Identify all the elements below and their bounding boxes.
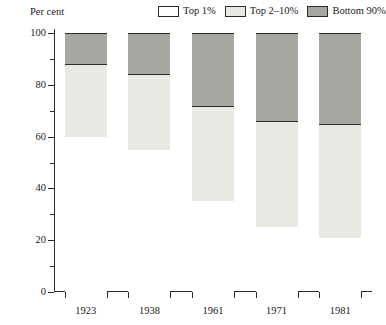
y-tick-label: 80 [36, 80, 47, 91]
legend-swatch-top-1 [158, 6, 179, 17]
bar-1923[interactable] [65, 33, 107, 292]
x-tick-label-1923: 1923 [75, 306, 96, 317]
segment-top-1-1923 [65, 137, 107, 292]
y-tick-mark [48, 240, 54, 241]
x-tick-mark [256, 292, 257, 298]
y-tick-mark [50, 266, 54, 267]
y-tick-label: 20 [36, 235, 47, 246]
y-tick-label: 100 [30, 28, 46, 39]
x-tick-mark [361, 292, 362, 298]
segment-bottom-90-1938 [128, 33, 170, 74]
x-tick-mark [192, 292, 193, 298]
segment-top-2-10-1923 [65, 64, 107, 137]
y-tick-mark [48, 33, 54, 34]
bar-1971[interactable] [256, 33, 298, 292]
x-tick-mark [128, 292, 129, 298]
x-tick-label-1971: 1971 [266, 306, 287, 317]
y-tick-mark [48, 85, 54, 86]
x-tick-mark [234, 292, 235, 298]
segment-bottom-90-1923 [65, 33, 107, 64]
legend-swatch-top-2-10 [225, 6, 246, 17]
y-axis-line [54, 29, 55, 292]
segment-top-2-10-1961 [192, 106, 234, 202]
y-tick-label: 40 [36, 183, 47, 194]
y-tick-mark [50, 163, 54, 164]
segment-top-1-1981 [319, 238, 361, 292]
bar-1981[interactable] [319, 33, 361, 292]
x-tick-mark [319, 292, 320, 298]
legend-label-bottom-90: Bottom 90% [332, 6, 385, 17]
legend-item-top-2-10: Top 2–10% [225, 6, 299, 17]
bar-1961[interactable] [192, 33, 234, 292]
y-tick-mark [48, 188, 54, 189]
segment-top-1-1938 [128, 150, 170, 292]
y-tick-mark [48, 292, 54, 293]
x-tick-mark [170, 292, 171, 298]
segment-top-1-1961 [192, 201, 234, 292]
y-tick-mark [50, 59, 54, 60]
x-tick-mark [107, 292, 108, 298]
segment-top-2-10-1971 [256, 121, 298, 227]
y-tick-label: 0 [41, 287, 46, 298]
y-tick-label: 60 [36, 131, 47, 142]
legend-item-bottom-90: Bottom 90% [307, 6, 385, 17]
plot-area: 020406080100 19231938196119711981 [54, 33, 372, 292]
segment-top-2-10-1981 [319, 124, 361, 238]
x-tick-label-1961: 1961 [203, 306, 224, 317]
segment-bottom-90-1961 [192, 33, 234, 106]
segment-top-1-1971 [256, 227, 298, 292]
x-tick-mark [298, 292, 299, 298]
y-axis-title: Per cent [30, 7, 64, 18]
bar-1938[interactable] [128, 33, 170, 292]
legend-swatch-bottom-90 [307, 6, 328, 17]
chart-legend: Top 1% Top 2–10% Bottom 90% [158, 6, 386, 17]
y-tick-mark [50, 111, 54, 112]
x-tick-label-1981: 1981 [330, 306, 351, 317]
x-tick-label-1938: 1938 [139, 306, 160, 317]
legend-label-top-1: Top 1% [183, 6, 216, 17]
x-tick-mark [65, 292, 66, 298]
legend-item-top-1: Top 1% [158, 6, 216, 17]
y-tick-mark [50, 214, 54, 215]
segment-bottom-90-1981 [319, 33, 361, 124]
segment-top-2-10-1938 [128, 74, 170, 149]
segment-bottom-90-1971 [256, 33, 298, 121]
legend-label-top-2-10: Top 2–10% [250, 6, 299, 17]
y-tick-mark [48, 137, 54, 138]
